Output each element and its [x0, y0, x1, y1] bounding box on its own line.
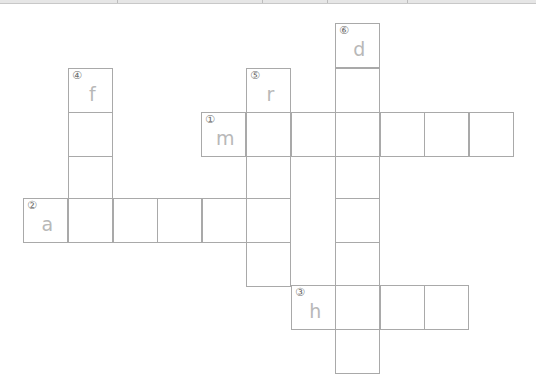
crossword-cell[interactable]	[335, 112, 380, 157]
crossword-board: ⑥d④f⑤r①m②a③h	[0, 0, 536, 390]
cell-letter: m	[202, 126, 245, 150]
crossword-cell[interactable]	[335, 242, 380, 287]
crossword-cell[interactable]	[68, 198, 113, 243]
crossword-cell-clue-start[interactable]: ④f	[68, 68, 113, 113]
cell-letter: h	[292, 299, 335, 323]
crossword-cell[interactable]	[291, 112, 336, 157]
crossword-cell[interactable]	[424, 285, 469, 330]
crossword-cell[interactable]	[424, 112, 469, 157]
crossword-cell[interactable]	[380, 285, 425, 330]
clue-number: ⑥	[339, 25, 349, 37]
crossword-cell[interactable]	[246, 242, 291, 287]
crossword-cell-clue-start[interactable]: ③h	[291, 285, 336, 330]
crossword-cell[interactable]	[157, 198, 202, 243]
crossword-cell[interactable]	[335, 285, 380, 330]
crossword-cell[interactable]	[246, 198, 291, 243]
crossword-cell[interactable]	[335, 198, 380, 243]
crossword-cell-clue-start[interactable]: ⑤r	[246, 68, 291, 113]
crossword-cell[interactable]	[113, 198, 158, 243]
crossword-cell-clue-start[interactable]: ⑥d	[335, 23, 380, 68]
clue-number: ②	[27, 200, 37, 212]
crossword-cell[interactable]	[335, 156, 380, 201]
clue-number: ④	[72, 70, 82, 82]
cell-letter: r	[247, 82, 290, 106]
clue-number: ③	[295, 287, 305, 299]
crossword-cell[interactable]	[68, 112, 113, 157]
cell-letter: f	[69, 82, 112, 106]
clue-number: ⑤	[250, 70, 260, 82]
cell-letter: a	[24, 212, 67, 236]
crossword-cell[interactable]	[202, 198, 247, 243]
crossword-cell[interactable]	[246, 156, 291, 201]
crossword-cell[interactable]	[335, 329, 380, 374]
crossword-cell-clue-start[interactable]: ①m	[201, 112, 246, 157]
cell-letter: d	[336, 37, 379, 61]
crossword-cell[interactable]	[469, 112, 514, 157]
crossword-cell[interactable]	[68, 156, 113, 201]
crossword-cell-clue-start[interactable]: ②a	[23, 198, 68, 243]
clue-number: ①	[205, 114, 215, 126]
crossword-cell[interactable]	[335, 68, 380, 113]
crossword-cell[interactable]	[246, 112, 291, 157]
crossword-cell[interactable]	[380, 112, 425, 157]
